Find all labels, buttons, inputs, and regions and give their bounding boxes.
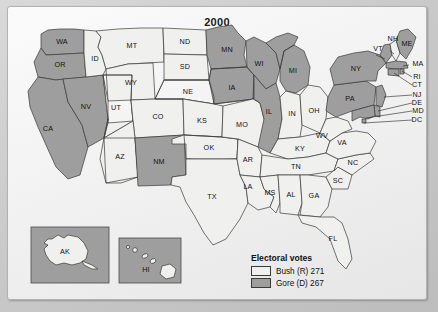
leader-DC (364, 120, 412, 123)
figure-container: 2000 (0, 0, 438, 312)
legend-title: Electoral votes (251, 253, 371, 263)
label-WA: WA (56, 37, 68, 46)
label-KY: KY (295, 144, 305, 153)
label-GA: GA (309, 191, 320, 200)
legend-entry-bush[interactable]: Bush (R) 271 (251, 266, 371, 276)
label-IL: IL (266, 107, 272, 116)
label-NE: NE (183, 87, 193, 96)
label-AZ: AZ (115, 152, 125, 161)
label-CT: CT (412, 80, 422, 89)
label-NV: NV (81, 102, 91, 111)
label-MT: MT (127, 41, 138, 50)
label-IA: IA (228, 83, 235, 92)
legend-entry-gore[interactable]: Gore (D) 267 (251, 278, 371, 288)
label-AR: AR (243, 155, 253, 164)
label-MO: MO (236, 120, 248, 129)
leader-NJ (384, 95, 412, 97)
map-legend: Electoral votes Bush (R) 271 Gore (D) 26… (251, 253, 371, 288)
label-ID: ID (91, 54, 99, 63)
label-NC: NC (348, 158, 359, 167)
label-MA: MA (412, 59, 423, 68)
label-OH: OH (308, 106, 319, 115)
label-UT: UT (111, 103, 121, 112)
label-WI: WI (254, 59, 263, 68)
label-PA: PA (345, 94, 354, 103)
label-ND: ND (180, 37, 191, 46)
label-WY: WY (125, 78, 137, 87)
label-MI: MI (289, 66, 297, 75)
state-DC[interactable] (362, 119, 366, 123)
label-VA: VA (337, 138, 346, 147)
label-DC: DC (412, 115, 423, 124)
label-TX: TX (207, 192, 217, 201)
label-AL: AL (286, 190, 295, 199)
label-LA: LA (243, 182, 252, 191)
label-CO: CO (152, 112, 163, 121)
hawaii-inset[interactable]: HI (119, 238, 181, 283)
label-TN: TN (291, 162, 301, 171)
label-KS: KS (197, 116, 207, 125)
label-VT: VT (373, 44, 383, 53)
label-HI: HI (142, 265, 150, 274)
leader-CT (394, 73, 412, 85)
label-FL: FL (329, 234, 338, 243)
label-AK: AK (60, 247, 70, 256)
label-OK: OK (204, 143, 215, 152)
label-OR: OR (54, 60, 65, 69)
label-IN: IN (288, 109, 296, 118)
legend-label-gore: Gore (D) 267 (276, 279, 324, 288)
state-NJ[interactable] (376, 85, 386, 107)
label-NM: NM (153, 157, 165, 166)
label-MD: MD (412, 106, 424, 115)
label-NY: NY (351, 64, 361, 73)
alaska-inset[interactable]: AK (31, 227, 109, 283)
label-SC: SC (333, 176, 343, 185)
label-CA: CA (43, 124, 53, 133)
label-ME: ME (401, 39, 412, 48)
label-NH: NH (388, 34, 399, 43)
legend-swatch-bush (251, 266, 271, 276)
state-MA[interactable] (386, 61, 408, 69)
legend-label-bush: Bush (R) 271 (276, 267, 324, 276)
label-MN: MN (221, 45, 233, 54)
map-panel: 2000 (7, 6, 427, 300)
label-SD: SD (180, 62, 190, 71)
legend-swatch-gore (251, 278, 271, 288)
label-WV: WV (316, 131, 328, 140)
label-MS: MS (264, 188, 275, 197)
